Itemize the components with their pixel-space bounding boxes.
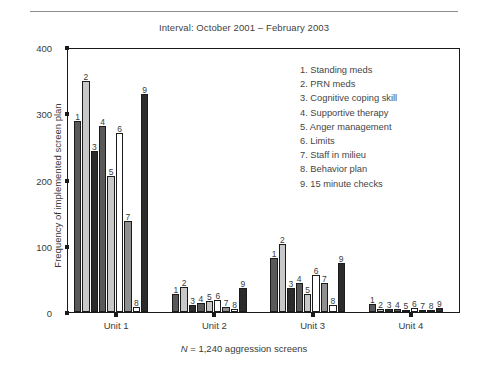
bar-number-label: 2: [280, 236, 285, 245]
y-axis-tick: [65, 112, 69, 116]
bar-number-label: 9: [437, 300, 442, 309]
bar[interactable]: 4: [296, 283, 303, 312]
legend-item: 7. Staff in milieu: [300, 148, 397, 162]
bar-number-label: 7: [126, 213, 131, 222]
bar[interactable]: 3: [385, 309, 392, 312]
bar-number-label: 3: [92, 143, 97, 152]
bar-number-label: 4: [395, 301, 400, 310]
bar-number-label: 4: [100, 118, 105, 127]
legend-item: 1. Standing meds: [300, 63, 397, 77]
bar[interactable]: 8: [133, 307, 140, 312]
bar-number-label: 8: [232, 301, 237, 310]
bar-group: 123456789: [74, 49, 149, 312]
bar[interactable]: 7: [222, 307, 229, 312]
bar[interactable]: 9: [239, 288, 246, 312]
y-axis-tick: [65, 179, 69, 183]
bar-number-label: 4: [199, 295, 204, 304]
y-axis-tick-label: 300: [12, 109, 52, 120]
bar[interactable]: 7: [124, 221, 131, 312]
bar-number-label: 6: [117, 125, 122, 134]
bar[interactable]: 9: [338, 263, 345, 312]
y-axis-tick-label: 200: [12, 175, 52, 186]
bar-number-label: 3: [387, 301, 392, 310]
bar-number-label: 1: [75, 113, 80, 122]
bar-number-label: 6: [412, 300, 417, 309]
plot-area: 123456789123456789123456789123456789 1. …: [67, 48, 460, 313]
bar[interactable]: 5: [304, 294, 311, 312]
caption-text: = 1,240 aggression screens: [188, 343, 308, 354]
bar-number-label: 1: [272, 250, 277, 259]
bar-number-label: 2: [84, 73, 89, 82]
bar[interactable]: 9: [141, 94, 148, 312]
bar[interactable]: 1: [74, 121, 81, 312]
y-axis-tick-label: 400: [12, 43, 52, 54]
bar[interactable]: 8: [427, 310, 434, 312]
legend-item: 8. Behavior plan: [300, 162, 397, 176]
x-axis-tick: [311, 313, 315, 317]
bar-number-label: 7: [224, 299, 229, 308]
bar[interactable]: 7: [419, 310, 426, 312]
bar[interactable]: 2: [82, 81, 89, 312]
y-axis-tick: [65, 311, 69, 315]
bar[interactable]: 2: [180, 287, 187, 312]
bar-number-label: 2: [378, 301, 383, 310]
bar[interactable]: 5: [206, 301, 213, 312]
bar-number-label: 5: [403, 302, 408, 311]
bar-number-label: 1: [370, 296, 375, 305]
x-axis-category-label: Unit 4: [398, 320, 423, 331]
bar[interactable]: 5: [402, 310, 409, 312]
bar[interactable]: 3: [287, 288, 294, 312]
legend-item: 2. PRN meds: [300, 77, 397, 91]
bar-number-label: 1: [173, 286, 178, 295]
bar-number-label: 7: [322, 275, 327, 284]
bar[interactable]: 8: [231, 309, 238, 312]
bar-number-label: 8: [134, 299, 139, 308]
bar[interactable]: 4: [197, 303, 204, 312]
bar-number-label: 9: [339, 255, 344, 264]
x-axis-category-label: Unit 2: [202, 320, 227, 331]
bar[interactable]: 6: [411, 308, 418, 312]
y-axis-tick-label: 100: [12, 241, 52, 252]
bar[interactable]: 5: [107, 176, 114, 312]
x-axis-tick: [212, 313, 216, 317]
chart-legend: 1. Standing meds2. PRN meds3. Cognitive …: [300, 63, 397, 191]
bar[interactable]: 6: [312, 275, 319, 312]
y-axis-title: Frequency of implemented screen plan: [52, 71, 63, 301]
bar[interactable]: 1: [369, 304, 376, 312]
bar[interactable]: 8: [329, 305, 336, 312]
caption-n-symbol: N: [181, 343, 188, 354]
bar[interactable]: 1: [270, 258, 277, 312]
bar[interactable]: 4: [99, 126, 106, 312]
figure-caption: N = 1,240 aggression screens: [0, 343, 488, 354]
legend-item: 9. 15 minute checks: [300, 177, 397, 191]
bar-number-label: 5: [109, 168, 114, 177]
bar[interactable]: 7: [321, 283, 328, 312]
bar[interactable]: 2: [279, 244, 286, 312]
bar[interactable]: 3: [91, 151, 98, 312]
bar[interactable]: 1: [172, 294, 179, 312]
bar-number-label: 2: [182, 279, 187, 288]
bar[interactable]: 3: [189, 305, 196, 312]
bar-number-label: 9: [142, 86, 147, 95]
bar-number-label: 3: [190, 297, 195, 306]
y-axis-tick-label: 0: [12, 308, 52, 319]
top-divider-rule: [30, 11, 458, 12]
bar[interactable]: 2: [377, 309, 384, 312]
legend-item: 3. Cognitive coping skill: [300, 91, 397, 105]
x-axis-tick: [114, 313, 118, 317]
x-axis-tick: [409, 313, 413, 317]
bar-number-label: 8: [330, 297, 335, 306]
bar-number-label: 5: [207, 293, 212, 302]
bar-number-label: 5: [305, 286, 310, 295]
bar[interactable]: 9: [436, 308, 443, 312]
bar-number-label: 3: [288, 280, 293, 289]
bar-number-label: 7: [420, 302, 425, 311]
bar-number-label: 8: [429, 302, 434, 311]
bar[interactable]: 4: [394, 309, 401, 312]
bar-number-label: 9: [241, 280, 246, 289]
x-axis-category-label: Unit 3: [300, 320, 325, 331]
bar[interactable]: 6: [214, 300, 221, 312]
bar[interactable]: 6: [116, 133, 123, 312]
y-axis-tick: [65, 46, 69, 50]
chart-title: Interval: October 2001 – February 2003: [0, 22, 488, 33]
